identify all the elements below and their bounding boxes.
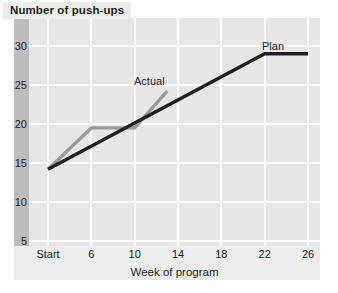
x-axis-tick-label: Start xyxy=(36,248,59,260)
series-lines xyxy=(29,18,320,246)
y-axis-tick-label: 30 xyxy=(5,40,27,52)
y-axis-tick-label: 20 xyxy=(5,118,27,130)
x-axis-tick-label: 18 xyxy=(215,248,227,260)
x-axis-tick-label: 6 xyxy=(88,248,94,260)
x-axis-tick-label: 10 xyxy=(129,248,141,260)
x-axis-tick-label: 26 xyxy=(302,248,314,260)
chart-container: 30252015105 Start61014182226 Number of p… xyxy=(0,0,338,293)
x-axis-title: Week of program xyxy=(29,266,320,278)
series-line-plan xyxy=(48,54,308,169)
series-label-plan: Plan xyxy=(262,40,284,52)
y-axis-tick-label: 15 xyxy=(5,157,27,169)
x-axis-tick-labels: Start61014182226 xyxy=(29,248,320,264)
y-axis-tick-label: 5 xyxy=(5,235,27,247)
series-line-actual xyxy=(48,91,167,169)
plot-area xyxy=(29,18,320,246)
x-axis-tick-label: 22 xyxy=(259,248,271,260)
series-label-actual: Actual xyxy=(134,75,165,87)
y-axis-tick-labels: 30252015105 xyxy=(0,18,27,246)
y-axis-tick-label: 25 xyxy=(5,79,27,91)
x-axis-tick-label: 14 xyxy=(172,248,184,260)
chart-title: Number of push-ups xyxy=(3,2,131,19)
y-axis-tick-label: 10 xyxy=(5,196,27,208)
